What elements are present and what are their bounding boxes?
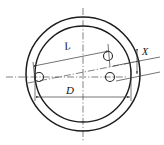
L-dimension-label: L [62, 39, 71, 52]
X-parallel-upper [113, 57, 160, 66]
technical-drawing-figure: L D X [0, 0, 164, 145]
ring-assembly-drawing: L D X [0, 0, 164, 145]
L-dimension-line [34, 51, 109, 66]
L-extension-right [108, 44, 110, 67]
D-dimension-label: D [65, 84, 74, 96]
hole-right-tilted [104, 52, 113, 61]
X-parallel-lower [116, 72, 160, 81]
X-dimension-label: X [141, 46, 149, 57]
